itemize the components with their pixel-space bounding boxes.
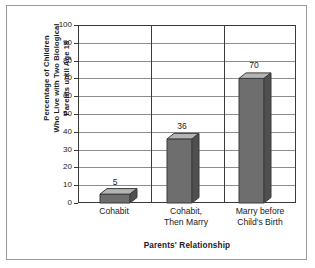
bar-value-label-cohabit: 5 — [100, 178, 130, 187]
y-tick-label-100: 100 — [50, 21, 72, 29]
x-category-label-marry-before-childs-birth: Marry before Child's Birth — [223, 206, 297, 227]
y-tick-label-0: 0 — [50, 199, 72, 207]
bar-cohabit-then-marry — [167, 133, 199, 203]
x-category-label-cohabit-then-marry-line-2: Then Marry — [150, 217, 222, 228]
y-tick-label-50: 50 — [50, 110, 72, 118]
y-tick-label-20: 20 — [50, 163, 72, 171]
x-category-label-cohabit-then-marry: Cohabit, Then Marry — [150, 206, 222, 227]
y-tick-label-30: 30 — [50, 146, 72, 154]
y-tick-label-70: 70 — [50, 74, 72, 82]
y-tick-label-40: 40 — [50, 128, 72, 136]
y-tick-label-60: 60 — [50, 92, 72, 100]
x-category-label-cohabit-then-marry-line-1: Cohabit, — [150, 206, 222, 217]
x-category-label-cohabit-line-1: Cohabit — [78, 206, 150, 217]
bar-marry-before-childs-birth — [239, 73, 271, 203]
chart-figure: Percentage of Children Who Live with Two… — [0, 0, 315, 268]
y-tick-label-80: 80 — [50, 57, 72, 65]
bar-value-label-cohabit-then-marry: 36 — [167, 122, 197, 131]
x-category-label-cohabit: Cohabit — [78, 206, 150, 217]
bar-value-label-marry-before-childs-birth: 70 — [239, 61, 269, 70]
bar-cohabit — [100, 189, 137, 203]
y-tick-label-90: 90 — [50, 39, 72, 47]
x-axis-title: Parents' Relationship — [78, 241, 296, 250]
x-category-label-marry-before-childs-birth-line-2: Child's Birth — [223, 217, 297, 228]
y-axis-tick-labels: 100 90 80 70 60 50 40 30 20 10 0 — [48, 0, 72, 268]
y-tick-label-10: 10 — [50, 181, 72, 189]
x-category-label-marry-before-childs-birth-line-1: Marry before — [223, 206, 297, 217]
